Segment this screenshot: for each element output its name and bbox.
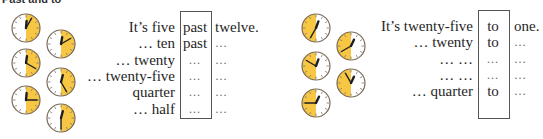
- clock-icon: [335, 30, 367, 62]
- row-preposition: …: [180, 101, 210, 117]
- row-label: It’s five: [129, 19, 175, 35]
- row-hour: …: [514, 67, 527, 83]
- row-label: … …: [439, 67, 473, 83]
- row-hour: …: [514, 34, 527, 50]
- row-preposition: …: [478, 67, 508, 83]
- row-preposition: …: [180, 68, 210, 84]
- row-hour: …: [215, 35, 228, 51]
- clock-icon: [300, 12, 332, 44]
- clock-icon: [45, 28, 77, 60]
- row-preposition: to: [478, 83, 508, 99]
- clock-icon: [45, 66, 77, 98]
- clock-icon: [10, 47, 42, 79]
- row-label: … quarter: [412, 83, 473, 99]
- row-label: … twenty: [413, 34, 473, 50]
- row-preposition: past: [180, 19, 210, 35]
- clock-icon: [335, 67, 367, 99]
- clock-icon: [10, 12, 42, 44]
- row-hour: …: [514, 83, 527, 99]
- clock-icon: [300, 87, 332, 119]
- row-label: … half: [133, 101, 175, 117]
- row-preposition: …: [180, 84, 210, 100]
- row-preposition: …: [180, 52, 210, 68]
- row-label: … ten: [138, 35, 175, 51]
- row-hour: …: [215, 52, 228, 68]
- row-hour: …: [215, 84, 228, 100]
- row-label: It’s twenty-five: [381, 18, 473, 34]
- row-hour: …: [514, 51, 527, 67]
- row-label: … twenty: [115, 52, 175, 68]
- row-preposition: to: [478, 34, 508, 50]
- section-heading: Past and to: [2, 0, 61, 5]
- row-hour: one.: [514, 18, 539, 34]
- row-hour: …: [215, 68, 228, 84]
- row-preposition: …: [478, 51, 508, 67]
- clock-icon: [300, 50, 332, 82]
- clock-icon: [45, 102, 77, 134]
- row-label: … …: [439, 51, 473, 67]
- clock-icon: [10, 84, 42, 116]
- row-hour: twelve.: [215, 19, 259, 35]
- row-hour: …: [215, 101, 228, 117]
- row-preposition: to: [478, 18, 508, 34]
- row-preposition: past: [180, 35, 210, 51]
- row-label: quarter: [133, 84, 175, 100]
- row-label: … twenty-five: [87, 68, 175, 84]
